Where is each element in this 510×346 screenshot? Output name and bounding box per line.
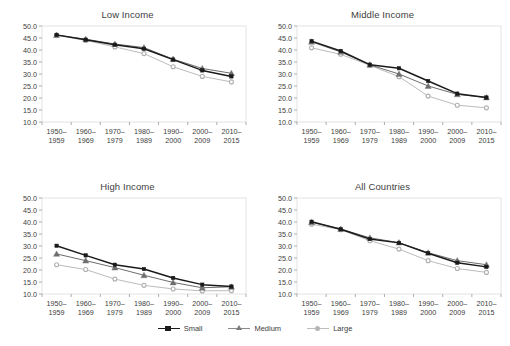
svg-text:1979: 1979 bbox=[107, 136, 123, 145]
svg-text:25.0: 25.0 bbox=[278, 254, 292, 263]
legend-key-small bbox=[158, 324, 180, 332]
svg-text:2015: 2015 bbox=[478, 136, 494, 145]
svg-text:1980–: 1980– bbox=[389, 299, 409, 308]
square-marker-icon bbox=[165, 326, 171, 332]
panel-middle-income: Middle Income 10.015.020.025.030.035.040… bbox=[255, 0, 510, 170]
svg-text:1959: 1959 bbox=[304, 136, 320, 145]
legend-item-small: Small bbox=[158, 324, 203, 333]
svg-text:2000: 2000 bbox=[165, 136, 181, 145]
svg-text:2000–: 2000– bbox=[447, 299, 467, 308]
svg-text:40.0: 40.0 bbox=[23, 46, 37, 55]
svg-text:15.0: 15.0 bbox=[278, 106, 292, 115]
svg-text:20.0: 20.0 bbox=[23, 266, 37, 275]
svg-text:1980–: 1980– bbox=[134, 299, 154, 308]
svg-text:45.0: 45.0 bbox=[278, 34, 292, 43]
svg-text:30.0: 30.0 bbox=[23, 70, 37, 79]
svg-text:20.0: 20.0 bbox=[23, 94, 37, 103]
svg-text:10.0: 10.0 bbox=[23, 118, 37, 127]
panel-low-income: Low Income 10.015.020.025.030.035.040.04… bbox=[0, 0, 255, 170]
svg-text:2000–: 2000– bbox=[192, 299, 212, 308]
svg-text:1969: 1969 bbox=[333, 308, 349, 317]
plot-area-middle-income: 10.015.020.025.030.035.040.045.050.01950… bbox=[255, 0, 510, 170]
legend-label: Large bbox=[333, 324, 352, 333]
svg-text:1990–: 1990– bbox=[163, 127, 183, 136]
svg-text:25.0: 25.0 bbox=[23, 82, 37, 91]
svg-text:15.0: 15.0 bbox=[278, 278, 292, 287]
svg-text:1990–: 1990– bbox=[163, 299, 183, 308]
svg-text:1950–: 1950– bbox=[47, 299, 67, 308]
svg-text:1979: 1979 bbox=[362, 308, 378, 317]
svg-text:1960–: 1960– bbox=[331, 299, 351, 308]
svg-text:1990–: 1990– bbox=[418, 127, 438, 136]
svg-text:1969: 1969 bbox=[333, 136, 349, 145]
panel-all-countries: All Countries 10.015.020.025.030.035.040… bbox=[255, 172, 510, 342]
svg-text:1979: 1979 bbox=[107, 308, 123, 317]
svg-text:1960–: 1960– bbox=[76, 299, 96, 308]
svg-text:2009: 2009 bbox=[449, 308, 465, 317]
legend-label: Medium bbox=[254, 324, 281, 333]
svg-text:15.0: 15.0 bbox=[23, 278, 37, 287]
svg-text:40.0: 40.0 bbox=[278, 218, 292, 227]
legend-label: Small bbox=[184, 324, 203, 333]
svg-text:20.0: 20.0 bbox=[278, 266, 292, 275]
svg-text:35.0: 35.0 bbox=[23, 58, 37, 67]
svg-text:35.0: 35.0 bbox=[278, 230, 292, 239]
svg-text:1970–: 1970– bbox=[360, 299, 380, 308]
svg-text:1959: 1959 bbox=[304, 308, 320, 317]
svg-text:2015: 2015 bbox=[478, 308, 494, 317]
svg-text:1970–: 1970– bbox=[105, 299, 125, 308]
svg-text:50.0: 50.0 bbox=[23, 194, 37, 203]
svg-text:15.0: 15.0 bbox=[23, 106, 37, 115]
svg-text:2015: 2015 bbox=[223, 136, 239, 145]
svg-text:1950–: 1950– bbox=[302, 299, 322, 308]
svg-text:40.0: 40.0 bbox=[23, 218, 37, 227]
svg-text:1989: 1989 bbox=[136, 308, 152, 317]
svg-text:1980–: 1980– bbox=[134, 127, 154, 136]
svg-text:2000–: 2000– bbox=[192, 127, 212, 136]
svg-text:2000: 2000 bbox=[420, 308, 436, 317]
svg-text:2010–: 2010– bbox=[476, 299, 496, 308]
svg-text:1969: 1969 bbox=[78, 136, 94, 145]
svg-text:1960–: 1960– bbox=[76, 127, 96, 136]
triangle-marker-icon bbox=[236, 325, 242, 330]
svg-text:1979: 1979 bbox=[362, 136, 378, 145]
svg-text:1969: 1969 bbox=[78, 308, 94, 317]
svg-text:1980–: 1980– bbox=[389, 127, 409, 136]
svg-text:20.0: 20.0 bbox=[278, 94, 292, 103]
legend-item-large: Large bbox=[307, 324, 352, 333]
svg-text:50.0: 50.0 bbox=[278, 22, 292, 31]
svg-text:2010–: 2010– bbox=[221, 127, 241, 136]
svg-text:30.0: 30.0 bbox=[278, 242, 292, 251]
svg-text:1950–: 1950– bbox=[47, 127, 67, 136]
svg-text:25.0: 25.0 bbox=[278, 82, 292, 91]
svg-text:35.0: 35.0 bbox=[23, 230, 37, 239]
svg-text:2015: 2015 bbox=[223, 308, 239, 317]
svg-text:1950–: 1950– bbox=[302, 127, 322, 136]
svg-text:2009: 2009 bbox=[194, 136, 210, 145]
figure-multi-panel-chart: Low Income 10.015.020.025.030.035.040.04… bbox=[0, 0, 510, 346]
svg-text:2009: 2009 bbox=[194, 308, 210, 317]
svg-text:2000: 2000 bbox=[420, 136, 436, 145]
svg-text:45.0: 45.0 bbox=[23, 34, 37, 43]
panel-high-income: High Income 10.015.020.025.030.035.040.0… bbox=[0, 172, 255, 342]
svg-text:10.0: 10.0 bbox=[23, 290, 37, 299]
legend-key-medium bbox=[228, 324, 250, 332]
plot-area-low-income: 10.015.020.025.030.035.040.045.050.01950… bbox=[0, 0, 255, 170]
plot-area-high-income: 10.015.020.025.030.035.040.045.050.01950… bbox=[0, 172, 255, 342]
svg-text:2010–: 2010– bbox=[476, 127, 496, 136]
svg-text:10.0: 10.0 bbox=[278, 118, 292, 127]
svg-text:2000–: 2000– bbox=[447, 127, 467, 136]
legend-item-medium: Medium bbox=[228, 324, 281, 333]
svg-text:10.0: 10.0 bbox=[278, 290, 292, 299]
svg-text:30.0: 30.0 bbox=[278, 70, 292, 79]
svg-text:30.0: 30.0 bbox=[23, 242, 37, 251]
chart-legend: Small Medium Large bbox=[0, 318, 510, 338]
svg-text:1990–: 1990– bbox=[418, 299, 438, 308]
circle-marker-icon bbox=[315, 326, 320, 331]
plot-area-all-countries: 10.015.020.025.030.035.040.045.050.01950… bbox=[255, 172, 510, 342]
svg-text:2009: 2009 bbox=[449, 136, 465, 145]
svg-text:1959: 1959 bbox=[49, 136, 65, 145]
svg-text:25.0: 25.0 bbox=[23, 254, 37, 263]
svg-text:1959: 1959 bbox=[49, 308, 65, 317]
svg-text:50.0: 50.0 bbox=[278, 194, 292, 203]
